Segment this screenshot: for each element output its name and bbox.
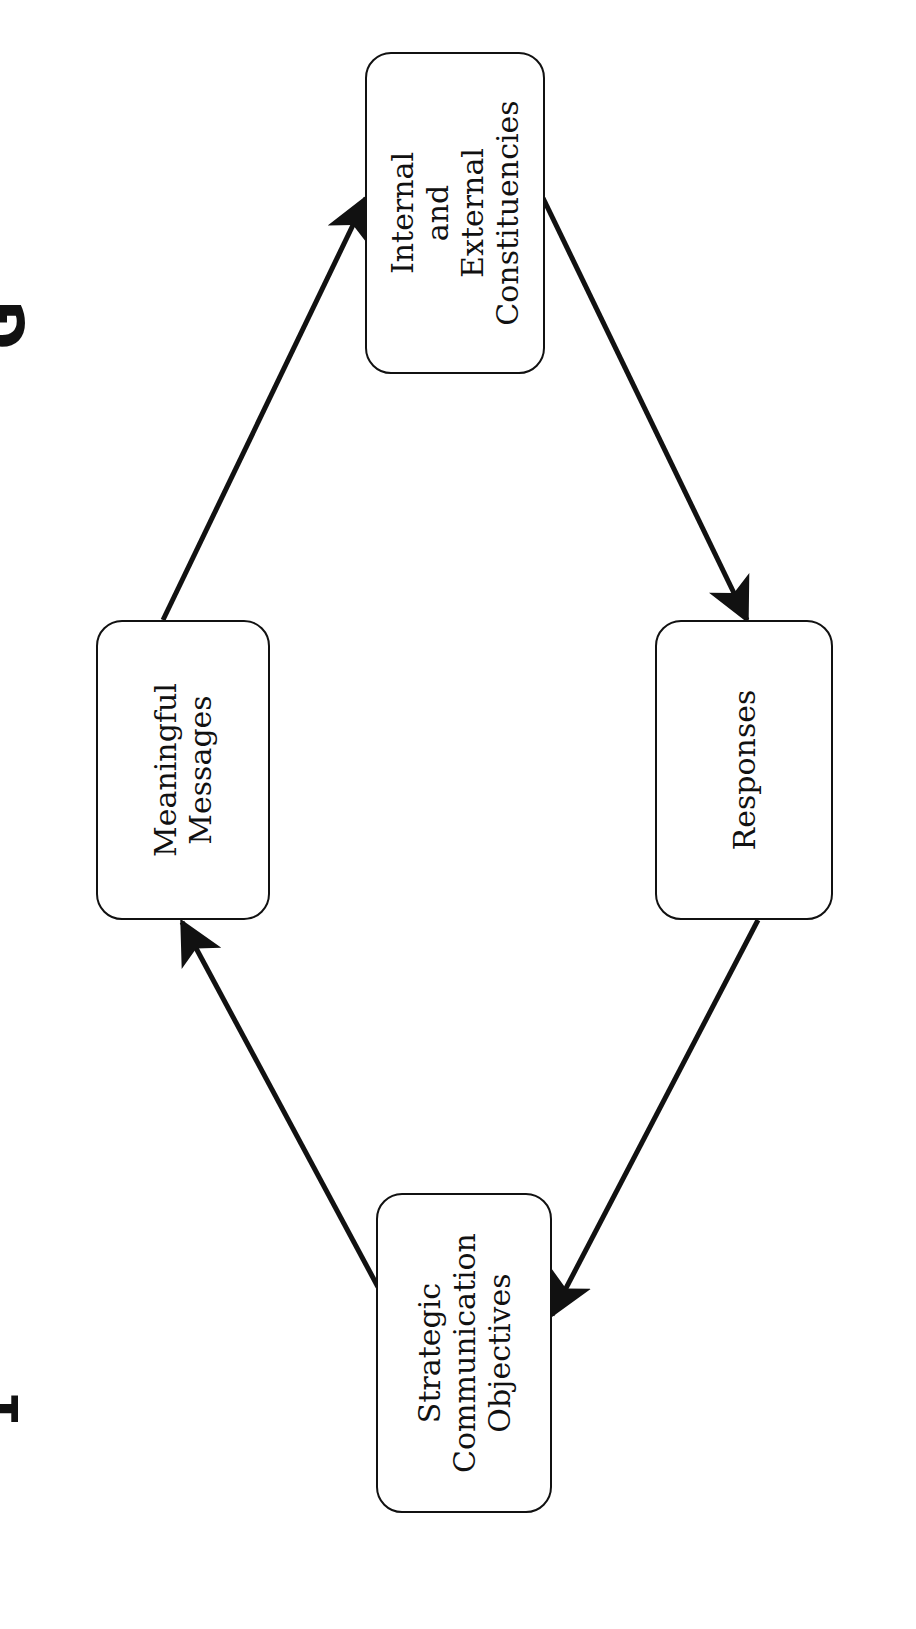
cycle-diagram: Meaningful Messages Internal and Externa…: [0, 0, 916, 1629]
arrow-responses-to-strategic: [552, 920, 758, 1315]
node-label: Meaningful Messages: [148, 683, 218, 857]
arrow-internal-to-responses: [543, 198, 747, 620]
arrow-meaningful-to-internal: [163, 198, 366, 620]
node-meaningful-messages: Meaningful Messages: [96, 620, 270, 920]
arrow-strategic-to-meaningful: [182, 922, 378, 1287]
node-label: Internal and External Constituencies: [385, 100, 525, 325]
cropped-title-fragment-bottom: 1: [0, 1392, 30, 1428]
node-strategic-communication-objectives: Strategic Communication Objectives: [376, 1193, 552, 1513]
node-responses: Responses: [655, 620, 833, 920]
cropped-title-fragment-top: G: [0, 300, 38, 349]
node-label: Strategic Communication Objectives: [412, 1233, 517, 1473]
node-internal-external-constituencies: Internal and External Constituencies: [365, 52, 545, 374]
node-label: Responses: [727, 690, 762, 851]
